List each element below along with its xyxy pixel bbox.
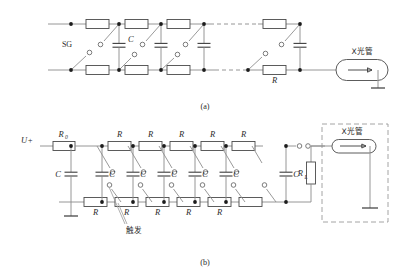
caption-panel-b: (b) xyxy=(200,258,210,267)
label-resistor-b-top-4: R xyxy=(209,129,216,139)
label-xray-tube-b: X光管 xyxy=(341,126,362,136)
label-trigger-b: 触发 xyxy=(126,225,142,235)
resistor-b-top-3 xyxy=(170,142,193,151)
label-capacitor-b-3: C xyxy=(140,169,146,179)
label-load-resistor-b: R L xyxy=(297,168,308,180)
label-capacitor-b-4: C xyxy=(171,169,177,179)
resistor-a-bottom-2 xyxy=(125,66,148,75)
label-resistor-b-top-5: R xyxy=(240,129,247,139)
node-dot xyxy=(131,200,135,204)
node-dot xyxy=(202,22,206,26)
node-dot xyxy=(298,22,302,26)
label-resistor-b-bottom-4: R xyxy=(185,207,192,217)
label-capacitor-b-5: C xyxy=(202,169,208,179)
spark-gap-a-1 xyxy=(71,24,119,70)
node-dot xyxy=(162,200,166,204)
resistor-a-top-1 xyxy=(86,20,109,29)
label-input-voltage-b: U+ xyxy=(21,135,33,145)
node-dot xyxy=(284,144,288,148)
panel-b: R 0 U+ R R R R R R R R R R C C C C C C C… xyxy=(21,124,388,267)
label-resistor-b-bottom-3: R xyxy=(154,207,161,217)
capacitor-a-4 xyxy=(294,24,307,70)
label-charge-resistor-text: R xyxy=(57,129,64,139)
label-charge-resistor-b: R 0 xyxy=(57,129,68,140)
node-dot xyxy=(69,68,73,72)
caption-panel-a: (a) xyxy=(200,102,209,111)
label-xray-tube-a: X光管 xyxy=(351,46,372,56)
node-dot xyxy=(224,144,228,148)
resistor-a-top-4 xyxy=(263,20,286,29)
resistor-a-top-3 xyxy=(167,20,190,29)
label-load-resistor-sub: L xyxy=(304,174,308,180)
resistor-b-top-1 xyxy=(108,142,131,151)
capacitor-a-2 xyxy=(155,24,168,70)
resistor-a-top-2 xyxy=(125,20,148,29)
label-load-resistor-text: R xyxy=(297,168,304,178)
spark-gap-b-output xyxy=(297,144,310,149)
node-dot xyxy=(284,200,288,204)
label-resistor-b-top-1: R xyxy=(116,129,123,139)
capacitor-b-1 xyxy=(64,146,78,216)
label-capacitor-b-2: C xyxy=(109,169,115,179)
node-dot xyxy=(202,68,206,72)
node-dot xyxy=(224,200,228,204)
label-charge-resistor-sub: 0 xyxy=(65,134,68,140)
capacitor-a-3 xyxy=(198,24,211,70)
panel-a: SG C R X光管 (a) xyxy=(48,20,388,112)
node-dot xyxy=(159,22,163,26)
resistor-b-top-2 xyxy=(139,142,162,151)
label-capacitor-a: C xyxy=(128,34,134,44)
spark-gap-b-6 xyxy=(252,146,276,202)
label-resistor-b-bottom-1: R xyxy=(92,207,99,217)
tube-enclosure-b xyxy=(322,124,388,222)
node-dot xyxy=(131,144,135,148)
label-resistor-a: R xyxy=(271,75,278,85)
label-capacitor-b-6: C xyxy=(233,169,239,179)
node-dot xyxy=(298,68,302,72)
node-dot xyxy=(159,68,163,72)
label-resistor-b-top-2: R xyxy=(147,129,154,139)
resistor-a-bottom-3 xyxy=(167,66,190,75)
resistor-b-top-4 xyxy=(201,142,224,151)
node-dot xyxy=(100,144,104,148)
label-spark-gap-a: SG xyxy=(62,40,72,49)
label-resistor-b-top-3: R xyxy=(178,129,185,139)
node-dot xyxy=(100,200,104,204)
xray-tube-b xyxy=(311,140,378,209)
node-dot xyxy=(117,22,121,26)
node-dot xyxy=(246,68,250,72)
label-capacitor-b-1: C xyxy=(55,169,61,179)
node-dot xyxy=(193,144,197,148)
capacitor-a-1 xyxy=(113,24,126,70)
capacitor-b-7 xyxy=(280,146,293,202)
node-dot xyxy=(193,200,197,204)
spark-gap-a-4 xyxy=(248,24,300,70)
resistor-a-bottom-4 xyxy=(263,66,286,75)
label-resistor-b-bottom-2: R xyxy=(123,207,130,217)
node-dot xyxy=(69,22,73,26)
node-dot xyxy=(117,68,121,72)
node-dot xyxy=(162,144,166,148)
circuit-diagram-svg: SG C R X光管 (a) xyxy=(0,0,410,278)
xray-tube-a xyxy=(336,60,388,89)
resistor-a-bottom-1 xyxy=(86,66,109,75)
node-dot xyxy=(69,144,73,148)
resistor-b-top-5 xyxy=(232,142,255,151)
figure-root: SG C R X光管 (a) xyxy=(0,0,410,278)
label-resistor-b-bottom-5: R xyxy=(216,207,223,217)
